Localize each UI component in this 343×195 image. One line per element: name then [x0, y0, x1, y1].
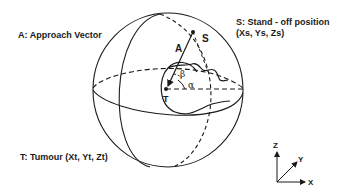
meridian-left — [119, 14, 160, 167]
label-beta: β — [180, 69, 185, 79]
axis-label-y: Y — [298, 155, 304, 164]
label-standoff-line2: (Xs, Ys, Zs) — [236, 28, 284, 38]
label-a: A — [175, 43, 182, 54]
label-approach-vector: A: Approach Vector — [18, 30, 102, 40]
axis-label-x: X — [308, 178, 314, 187]
label-s: S — [202, 33, 209, 44]
label-t: T — [163, 94, 169, 104]
approach-vector-diagram: S A T β α A: Approach Vector S: Stand - … — [0, 0, 343, 195]
label-alpha: α — [188, 80, 194, 90]
label-tumour: T: Tumour (Xt, Yt, Zt) — [20, 152, 108, 162]
tumour-outline — [161, 62, 230, 113]
point-t — [164, 87, 168, 91]
sphere-outline — [93, 13, 243, 167]
y-axis — [277, 162, 297, 182]
axis-label-z: Z — [273, 141, 278, 150]
label-standoff-line1: S: Stand - off position — [236, 17, 330, 27]
point-s — [191, 30, 195, 34]
alpha-arc — [178, 80, 185, 89]
coordinate-axes: Z Y X — [273, 141, 314, 187]
